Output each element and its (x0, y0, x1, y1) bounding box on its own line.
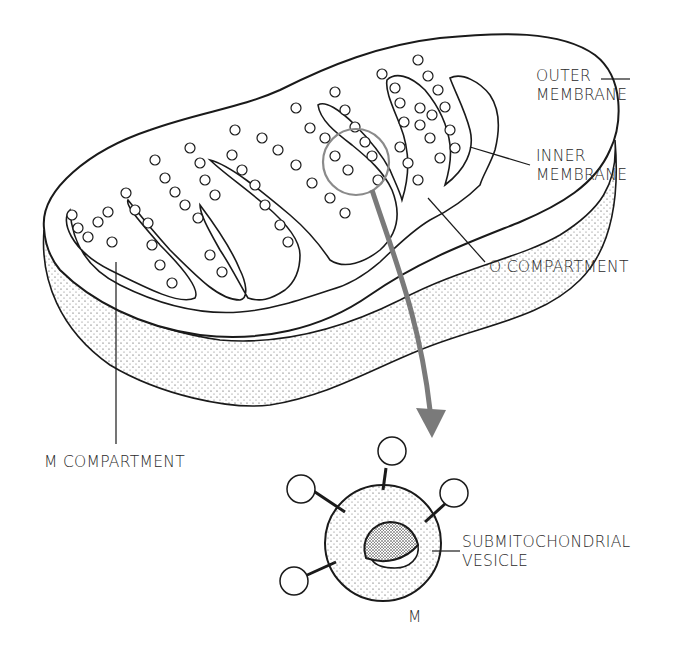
label-inner-membrane-line1: INNER (536, 147, 627, 166)
label-inner-membrane: INNER MEMBRANE (536, 147, 627, 185)
label-inner-membrane-line2: MEMBRANE (536, 166, 627, 185)
label-submitochondrial-vesicle: SUBMITOCHONDRIAL VESICLE (462, 533, 631, 571)
label-outer-membrane-line2: MEMBRANE (536, 86, 627, 105)
label-o-compartment: O COMPARTMENT (489, 258, 629, 277)
arrow-head-icon (416, 408, 446, 438)
label-m-compartment: M COMPARTMENT (44, 453, 185, 472)
label-outer-membrane-line1: OUTER (536, 67, 627, 86)
submitochondrial-vesicle (280, 437, 468, 601)
label-vesicle-line1: SUBMITOCHONDRIAL (462, 533, 631, 552)
label-vesicle-line2: VESICLE (462, 552, 631, 571)
label-outer-membrane: OUTER MEMBRANE (536, 67, 627, 105)
label-vesicle-m: M (408, 608, 422, 627)
